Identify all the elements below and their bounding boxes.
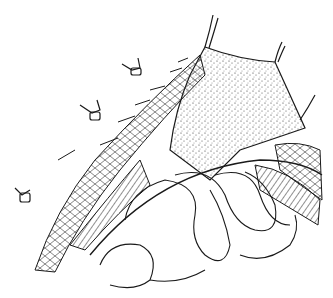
clamp-icon	[15, 188, 30, 202]
surgical-illustration	[0, 0, 333, 298]
clamp-icon	[80, 100, 100, 120]
illustration-canvas	[0, 0, 333, 298]
clamp-icon	[122, 58, 141, 75]
